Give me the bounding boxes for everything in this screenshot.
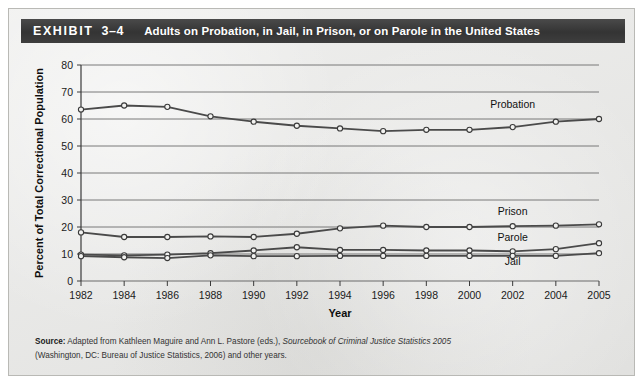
data-point-prison-1988 bbox=[208, 234, 213, 239]
series-label-probation: Probation bbox=[490, 98, 535, 110]
y-tick-label-80: 80 bbox=[61, 59, 73, 71]
source-publication: Sourcebook of Criminal Justice Statistic… bbox=[283, 337, 451, 346]
data-point-prison-2005 bbox=[596, 222, 601, 227]
data-point-jail-1982 bbox=[78, 254, 83, 259]
data-point-parole-1992 bbox=[294, 245, 299, 250]
data-point-probation-2004 bbox=[553, 119, 558, 124]
data-point-jail-1996 bbox=[381, 253, 386, 258]
data-point-jail-1998 bbox=[424, 253, 429, 258]
y-tick-label-60: 60 bbox=[61, 113, 73, 125]
exhibit-number: 3–4 bbox=[102, 24, 125, 38]
y-tick-label-20: 20 bbox=[61, 221, 73, 233]
y-axis-title: Percent of Total Correctional Population bbox=[33, 68, 45, 278]
data-point-probation-1994 bbox=[337, 126, 342, 131]
source-note: Source: Adapted from Kathleen Maguire an… bbox=[35, 335, 595, 362]
data-point-probation-1984 bbox=[122, 103, 127, 108]
data-point-probation-1992 bbox=[294, 123, 299, 128]
data-point-probation-2005 bbox=[596, 116, 601, 121]
x-tick-label-1984: 1984 bbox=[112, 289, 136, 301]
data-point-jail-2005 bbox=[596, 251, 601, 256]
x-tick-label-1990: 1990 bbox=[242, 289, 266, 301]
data-point-probation-1998 bbox=[424, 127, 429, 132]
data-point-probation-1996 bbox=[381, 129, 386, 134]
exhibit-figure-panel: EXHIBIT 3–4 Adults on Probation, in Jail… bbox=[8, 8, 635, 376]
x-tick-label-2002: 2002 bbox=[501, 289, 525, 301]
series-labels: ProbationPrisonParoleJail bbox=[490, 98, 535, 267]
data-point-prison-2002 bbox=[510, 224, 515, 229]
chart-canvas: ProbationPrisonParoleJail 01020304050607… bbox=[21, 53, 625, 323]
data-point-prison-2004 bbox=[553, 223, 558, 228]
series-label-parole: Parole bbox=[497, 231, 528, 243]
x-tick-label-2004: 2004 bbox=[544, 289, 568, 301]
data-point-parole-2000 bbox=[467, 248, 472, 253]
data-point-parole-1998 bbox=[424, 248, 429, 253]
source-line-1: Source: Adapted from Kathleen Maguire an… bbox=[35, 335, 595, 349]
x-tick-label-1992: 1992 bbox=[285, 289, 309, 301]
data-point-prison-1996 bbox=[381, 223, 386, 228]
data-point-probation-1988 bbox=[208, 114, 213, 119]
data-point-jail-2004 bbox=[553, 253, 558, 258]
data-point-jail-1992 bbox=[294, 254, 299, 259]
x-axis-title: Year bbox=[328, 307, 352, 319]
x-tick-label-1996: 1996 bbox=[371, 289, 395, 301]
data-point-prison-1984 bbox=[122, 234, 127, 239]
x-tick-label-2005: 2005 bbox=[587, 289, 611, 301]
exhibit-title: Adults on Probation, in Jail, in Prison,… bbox=[144, 25, 540, 37]
exhibit-label: EXHIBIT bbox=[33, 24, 94, 38]
data-point-prison-1990 bbox=[251, 234, 256, 239]
data-point-prison-1986 bbox=[165, 234, 170, 239]
data-point-jail-1990 bbox=[251, 254, 256, 259]
data-point-jail-1988 bbox=[208, 253, 213, 258]
data-point-parole-1996 bbox=[381, 247, 386, 252]
source-text-a: Adapted from Kathleen Maguire and Ann L.… bbox=[65, 337, 282, 346]
y-tick-label-40: 40 bbox=[61, 167, 73, 179]
x-tick-label-1988: 1988 bbox=[199, 289, 223, 301]
data-point-parole-1994 bbox=[337, 247, 342, 252]
data-point-jail-1986 bbox=[165, 255, 170, 260]
data-point-prison-1994 bbox=[337, 226, 342, 231]
data-point-prison-1992 bbox=[294, 231, 299, 236]
line-chart: ProbationPrisonParoleJail 01020304050607… bbox=[21, 53, 625, 323]
data-point-prison-1998 bbox=[424, 224, 429, 229]
data-point-probation-1986 bbox=[165, 104, 170, 109]
y-tick-label-0: 0 bbox=[67, 275, 73, 287]
y-tick-label-10: 10 bbox=[61, 248, 73, 260]
data-point-probation-2000 bbox=[467, 127, 472, 132]
data-point-probation-1990 bbox=[251, 119, 256, 124]
data-point-jail-1994 bbox=[337, 253, 342, 258]
x-tick-label-1998: 1998 bbox=[415, 289, 439, 301]
series-label-prison: Prison bbox=[498, 205, 528, 217]
x-tick-label-2000: 2000 bbox=[458, 289, 482, 301]
y-tick-label-50: 50 bbox=[61, 140, 73, 152]
data-point-prison-2000 bbox=[467, 224, 472, 229]
data-point-jail-2000 bbox=[467, 253, 472, 258]
source-label: Source: bbox=[35, 337, 65, 346]
data-point-parole-2005 bbox=[596, 241, 601, 246]
x-tick-label-1994: 1994 bbox=[328, 289, 352, 301]
source-line-2: (Washington, DC: Bureau of Justice Stati… bbox=[35, 349, 595, 363]
data-point-probation-1982 bbox=[78, 107, 83, 112]
data-point-parole-2004 bbox=[553, 247, 558, 252]
data-point-probation-2002 bbox=[510, 125, 515, 130]
y-tick-label-30: 30 bbox=[61, 194, 73, 206]
y-tick-label-70: 70 bbox=[61, 86, 73, 98]
tick-labels: 0102030405060708019821984198619881990199… bbox=[61, 59, 611, 301]
data-point-jail-1984 bbox=[122, 255, 127, 260]
data-point-prison-1982 bbox=[78, 230, 83, 235]
data-point-parole-1990 bbox=[251, 248, 256, 253]
page-root: EXHIBIT 3–4 Adults on Probation, in Jail… bbox=[0, 0, 643, 384]
x-tick-label-1982: 1982 bbox=[69, 289, 93, 301]
series-label-jail: Jail bbox=[505, 255, 521, 267]
exhibit-header-banner: EXHIBIT 3–4 Adults on Probation, in Jail… bbox=[21, 19, 625, 43]
x-tick-label-1986: 1986 bbox=[156, 289, 180, 301]
